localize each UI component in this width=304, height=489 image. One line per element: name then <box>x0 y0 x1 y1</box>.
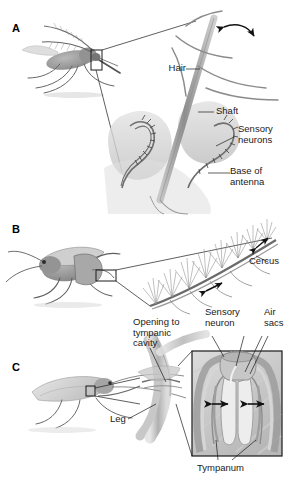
label-tympanum: Tympanum <box>197 463 244 474</box>
antenna-hairs <box>172 11 278 100</box>
label-cercus: Cercus <box>249 256 279 267</box>
scientific-figure: A B C Hair Shaft Sensory neurons Base of… <box>0 0 304 489</box>
label-leg: Leg <box>110 414 126 425</box>
label-air-sacs: Air sacs <box>264 307 284 328</box>
panel-letter-b: B <box>12 224 20 235</box>
vibration-arrow <box>224 25 254 36</box>
panel-letter-c: C <box>12 362 20 373</box>
label-sensory-neuron: Sensory neuron <box>205 307 240 328</box>
label-hair: Hair <box>152 63 186 74</box>
label-shaft: Shaft <box>216 106 238 117</box>
inset-connector-lines <box>176 351 192 456</box>
mosquito-illustration <box>22 23 120 98</box>
label-sensory-neurons: Sensory neurons <box>238 124 273 145</box>
panel-c-artwork <box>28 334 282 460</box>
cercus-detail <box>143 219 278 314</box>
label-base-of-antenna: Base of antenna <box>230 166 264 187</box>
panel-letter-a: A <box>12 23 20 34</box>
panel-b-artwork <box>6 219 278 314</box>
label-opening-to-tympanic-cavity: Opening to tympanic cavity <box>133 317 193 349</box>
cricket-illustration <box>6 247 120 308</box>
